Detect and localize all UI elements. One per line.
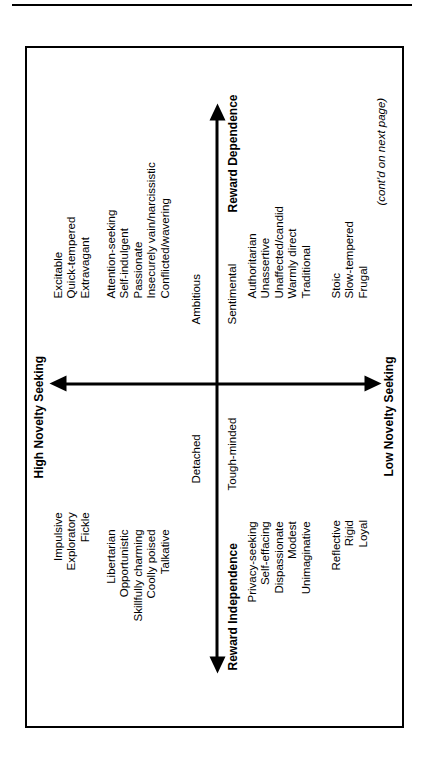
figure-frame: High Novelty Seeking Low Novelty Seeking… xyxy=(25,46,404,728)
trait-group-upper-left: Impulsive Exploratory Fickle xyxy=(51,512,91,570)
arrow-up-icon xyxy=(49,376,66,392)
axis-title-high-novelty-seeking: High Novelty Seeking xyxy=(31,355,45,478)
diagram-canvas: High Novelty Seeking Low Novelty Seeking… xyxy=(29,50,404,728)
arrow-right-icon xyxy=(209,103,225,120)
pole-label-ambitious: Ambitious xyxy=(189,274,202,325)
page-top-rule xyxy=(12,4,412,6)
horizontal-axis-line xyxy=(215,118,218,658)
trait-group-high-novelty-reward-dependence: Attention-seeking Self-indulgent Passion… xyxy=(104,162,171,298)
trait-group-lower-left: Reflective Rigid Loyal xyxy=(329,520,369,571)
axis-title-low-novelty-seeking: Low Novelty Seeking xyxy=(381,356,395,476)
axis-title-reward-independence: Reward Independence xyxy=(225,543,239,670)
pole-label-detached: Detached xyxy=(189,434,202,483)
trait-group-low-novelty-reward-dependence: Authoritarian Unassertive Unaffected/can… xyxy=(245,206,312,299)
arrow-left-icon xyxy=(209,656,225,673)
pole-label-tough-minded: Tough-minded xyxy=(225,417,238,490)
continuation-note: (cont'd on next page) xyxy=(374,97,386,205)
trait-group-low-novelty-reward-independence: Privacy-seeking Self-effacing Dispassion… xyxy=(245,521,312,602)
vertical-axis-line xyxy=(64,382,366,385)
trait-group-lower-right: Stoic Slow-tempered Frugal xyxy=(329,221,369,298)
pole-label-sentimental: Sentimental xyxy=(225,263,238,324)
trait-group-high-novelty-reward-independence: Libertarian Opportunistic Skillfully cha… xyxy=(104,529,171,621)
arrow-down-icon xyxy=(364,376,381,392)
axis-title-reward-dependence: Reward Dependence xyxy=(225,94,239,212)
trait-group-upper-right: Excitable Quick-tempered Extravagant xyxy=(51,216,91,298)
